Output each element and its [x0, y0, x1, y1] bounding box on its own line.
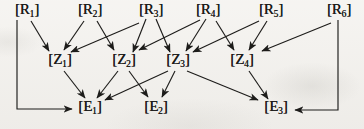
- node-R4: [R4]: [196, 2, 220, 20]
- node-R6: [R6]: [327, 2, 351, 20]
- node-letter: [E: [144, 98, 158, 114]
- node-E2: [E2]: [144, 99, 167, 117]
- node-Z4: [Z4]: [230, 52, 253, 70]
- node-Z2: [Z2]: [112, 52, 135, 70]
- node-R1: [R1]: [15, 2, 39, 20]
- node-layer: [R1][R2][R3][R4][R5][R6][Z1][Z2][Z3][Z4]…: [0, 0, 364, 129]
- node-letter: [Z: [166, 51, 180, 67]
- node-bracket-close: ]: [163, 98, 168, 114]
- node-letter: [R: [196, 1, 211, 17]
- node-bracket-close: ]: [97, 98, 102, 114]
- node-bracket-close: ]: [158, 1, 163, 17]
- node-R2: [R2]: [78, 2, 102, 20]
- node-E3: [E3]: [264, 99, 287, 117]
- node-letter: [Z: [230, 51, 244, 67]
- node-bracket-close: ]: [131, 51, 136, 67]
- node-letter: [Z: [112, 51, 126, 67]
- node-bracket-close: ]: [67, 51, 72, 67]
- node-bracket-close: ]: [283, 98, 288, 114]
- node-letter: [E: [264, 98, 278, 114]
- node-bracket-close: ]: [278, 1, 283, 17]
- node-R5: [R5]: [259, 2, 283, 20]
- node-letter: [R: [259, 1, 274, 17]
- node-bracket-close: ]: [34, 1, 39, 17]
- node-bracket-close: ]: [249, 51, 254, 67]
- node-bracket-close: ]: [215, 1, 220, 17]
- node-letter: [E: [78, 98, 92, 114]
- node-letter: [R: [139, 1, 154, 17]
- node-bracket-close: ]: [346, 1, 351, 17]
- node-bracket-close: ]: [97, 1, 102, 17]
- node-letter: [Z: [48, 51, 62, 67]
- node-letter: [R: [15, 1, 30, 17]
- node-letter: [R: [327, 1, 342, 17]
- node-letter: [R: [78, 1, 93, 17]
- scanned-diagram: [R1][R2][R3][R4][R5][R6][Z1][Z2][Z3][Z4]…: [0, 0, 364, 129]
- node-bracket-close: ]: [185, 51, 190, 67]
- node-R3: [R3]: [139, 2, 163, 20]
- node-E1: [E1]: [78, 99, 101, 117]
- node-Z3: [Z3]: [166, 52, 189, 70]
- node-Z1: [Z1]: [48, 52, 71, 70]
